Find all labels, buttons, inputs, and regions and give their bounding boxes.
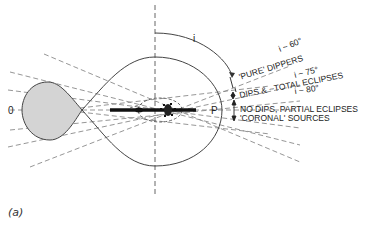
inclination-80-label: i ~ 80° <box>294 83 320 96</box>
inclination-60-label: i ~ 60° <box>277 35 303 53</box>
left-point-label: 0 <box>8 105 14 116</box>
compact-object <box>164 104 172 116</box>
companion-star-lobe <box>22 82 82 140</box>
coronal-sources-label: 'CORONAL' SOURCES <box>240 113 330 123</box>
roche-lobe-diagram: 0 P i i ~ 60° 'PURE' DIPPERS i ~ 75° DIP… <box>0 0 382 245</box>
disk-bulge-left <box>135 108 143 113</box>
figure-caption: (a) <box>8 206 23 219</box>
right-point-label: P <box>211 105 218 116</box>
angle-label: i <box>193 33 195 44</box>
